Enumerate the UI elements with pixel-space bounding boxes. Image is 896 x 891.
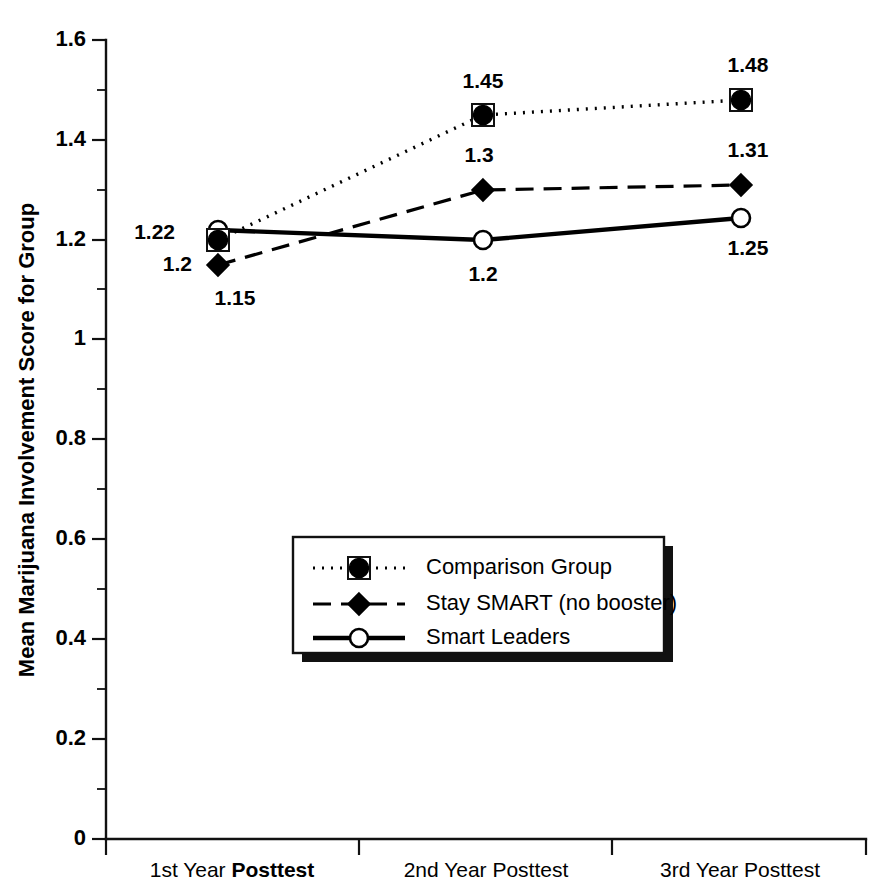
value-label-smart-leaders-1: 1.22 — [134, 220, 175, 243]
ytick-label-0-4: 0.4 — [55, 625, 86, 650]
xtick-label-3rd-year-posttest: 3rd Year Posttest — [660, 858, 820, 881]
data-point-comparison-group-2 — [474, 106, 493, 125]
value-label-stay-smart-1: 1.15 — [215, 286, 256, 309]
data-point-stay-smart-2 — [472, 179, 494, 201]
ytick-label-1: 1 — [74, 325, 86, 350]
xtick-label-2nd-year-posttest: 2nd Year Posttest — [404, 858, 569, 881]
legend-label-stay-smart: Stay SMART (no booster) — [426, 590, 677, 615]
ytick-label-0-8: 0.8 — [55, 425, 86, 450]
legend-label-comparison-group: Comparison Group — [426, 554, 612, 579]
y-axis-title: Mean Marijuana Involvement Score for Gro… — [14, 203, 39, 677]
xtick-label-1st-year-posttest: 1st Year Posttest — [150, 858, 315, 881]
data-point-comparison-group-1 — [209, 231, 228, 250]
value-label-smart-leaders-3: 1.25 — [728, 236, 769, 259]
y-major-ticks — [92, 40, 106, 839]
value-label-stay-smart-2: 1.3 — [464, 143, 493, 166]
data-point-comparison-group-3 — [732, 91, 751, 110]
data-point-stay-smart-1 — [207, 254, 229, 276]
ytick-label-1-2: 1.2 — [55, 226, 86, 251]
data-point-stay-smart-3 — [730, 174, 752, 196]
legend-label-smart-leaders: Smart Leaders — [426, 624, 570, 649]
data-point-smart-leaders-2 — [474, 231, 492, 249]
ytick-label-0: 0 — [74, 825, 86, 850]
ytick-label-1-4: 1.4 — [55, 126, 86, 151]
ytick-label-0-2: 0.2 — [55, 725, 86, 750]
ytick-label-1-6: 1.6 — [55, 26, 86, 51]
value-label-smart-leaders-2: 1.2 — [468, 262, 497, 285]
data-point-smart-leaders-3 — [732, 209, 750, 227]
legend-marker-smart-leaders — [350, 629, 368, 647]
markers-smart-leaders — [209, 209, 750, 249]
value-label-comparison-group-3: 1.48 — [728, 53, 769, 76]
line-chart: 1.6 1.4 1.2 1 0.8 0.6 0.4 0.2 0 Mean Mar… — [0, 0, 896, 891]
x-ticks — [106, 839, 866, 855]
ytick-label-0-6: 0.6 — [55, 525, 86, 550]
legend: Comparison Group Stay SMART (no booster)… — [293, 537, 677, 662]
chart-canvas: 1.6 1.4 1.2 1 0.8 0.6 0.4 0.2 0 Mean Mar… — [0, 0, 896, 891]
value-label-comparison-group-2: 1.45 — [463, 69, 504, 92]
value-label-stay-smart-3: 1.31 — [728, 138, 769, 161]
value-label-comparison-group-1: 1.2 — [163, 252, 192, 275]
legend-marker-comparison-group — [350, 559, 369, 578]
markers-comparison-group — [207, 89, 752, 251]
legend-item-comparison-group[interactable]: Comparison Group — [313, 554, 612, 579]
